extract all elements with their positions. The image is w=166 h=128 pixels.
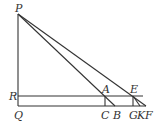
label-a: A xyxy=(101,83,110,96)
label-p: P xyxy=(14,2,23,15)
segment-pb xyxy=(18,14,115,106)
label-e: E xyxy=(129,83,138,96)
label-r: R xyxy=(8,90,17,103)
geometry-diagram: P R Q A E C B G K F xyxy=(0,0,166,128)
label-q: Q xyxy=(14,109,23,122)
segment-pf xyxy=(18,14,146,106)
label-f: F xyxy=(144,109,153,122)
label-b: B xyxy=(112,109,121,122)
label-c: C xyxy=(101,109,110,122)
